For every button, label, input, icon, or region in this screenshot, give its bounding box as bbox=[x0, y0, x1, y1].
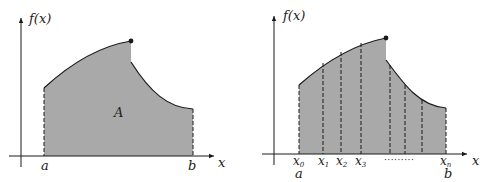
lower-bound-label: a bbox=[41, 158, 49, 173]
partition-label-x3: x3 bbox=[355, 154, 367, 169]
partition-label-sub: 2 bbox=[342, 161, 348, 169]
y-axis-label: f(x) bbox=[28, 11, 51, 26]
upper-bound-label: b bbox=[188, 158, 196, 173]
left-panel: f(x) x A a b bbox=[9, 11, 226, 173]
peak-point bbox=[129, 39, 134, 44]
y-axis-label: f(x) bbox=[282, 8, 305, 23]
x-axis-label: x bbox=[472, 153, 480, 168]
partition-label-sub: 1 bbox=[325, 161, 329, 169]
area-region bbox=[299, 38, 446, 154]
partition-label-x1: x1 bbox=[318, 154, 329, 169]
riemann-diagram: f(x) x A a b f(x) x x0 x1 x2 x3 ········… bbox=[0, 0, 485, 182]
x-axis-label: x bbox=[218, 155, 226, 170]
area-label: A bbox=[113, 105, 123, 120]
area-region bbox=[44, 41, 193, 156]
peak-point bbox=[384, 36, 389, 41]
lower-bound-label: a bbox=[295, 166, 303, 181]
partition-label-sub: 3 bbox=[362, 161, 367, 169]
right-panel: f(x) x x0 x1 x2 x3 ········· xn a b bbox=[262, 8, 480, 181]
partition-ellipsis: ········· bbox=[384, 155, 414, 165]
upper-bound-label: b bbox=[444, 166, 452, 181]
partition-label-x2: x2 bbox=[336, 154, 348, 169]
